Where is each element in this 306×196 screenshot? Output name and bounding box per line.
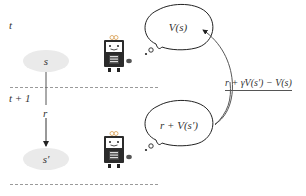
td-error-label: r + γV(s′) − V(s) — [225, 77, 292, 91]
robot-icon — [104, 36, 132, 73]
diagram-graphics — [0, 0, 306, 196]
thought-bubble-top-text: V(s) — [169, 21, 187, 33]
thought-bubble-bottom-text: r + V(s′) — [160, 119, 198, 131]
robot-icon — [104, 132, 132, 169]
td-learning-diagram: t t + 1 s s′ r — [0, 0, 306, 196]
